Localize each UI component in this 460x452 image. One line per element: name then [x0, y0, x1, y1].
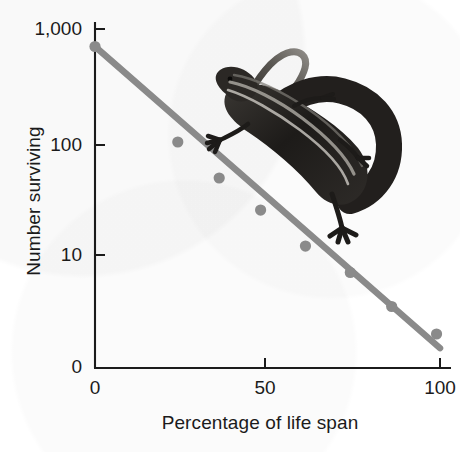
data-point	[172, 136, 183, 147]
survivorship-chart: Number surviving 1,000 100 10 0 0 50 100…	[0, 0, 460, 452]
axis-lines	[94, 22, 451, 368]
data-point	[386, 301, 397, 312]
data-point	[300, 240, 311, 251]
data-point	[431, 328, 442, 339]
data-point	[214, 172, 225, 183]
plot-area	[0, 0, 460, 452]
data-point	[345, 267, 356, 278]
data-point	[255, 204, 266, 215]
data-point	[89, 41, 100, 52]
